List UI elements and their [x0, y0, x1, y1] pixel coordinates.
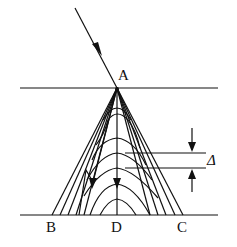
diagram-canvas: A B D C Δ — [0, 0, 237, 247]
delta-arrow-down-icon — [188, 142, 196, 152]
label-C: C — [177, 220, 187, 235]
label-B: B — [46, 220, 56, 235]
diagram-svg — [0, 0, 237, 247]
apex-point — [115, 87, 119, 91]
incident-ray-arrow-icon — [92, 42, 102, 56]
label-D: D — [111, 220, 122, 235]
delta-arrow-up-icon — [188, 169, 196, 179]
label-A: A — [118, 68, 129, 83]
ray-arrow-center-icon — [113, 178, 121, 189]
label-delta: Δ — [207, 153, 216, 168]
ray-fan — [52, 88, 183, 215]
